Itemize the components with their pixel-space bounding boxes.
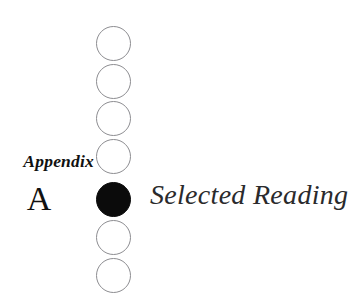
bullet-active: [96, 182, 131, 217]
appendix-letter: A: [0, 182, 94, 216]
bullet-inactive: [96, 26, 131, 61]
bullet-inactive: [96, 220, 131, 255]
bullet-inactive: [96, 101, 131, 136]
bullet-inactive: [96, 64, 131, 99]
bullet-inactive: [96, 258, 131, 293]
appendix-label: Appendix: [0, 153, 94, 171]
appendix-title-page: Appendix A Selected Reading: [0, 0, 351, 308]
bullet-inactive: [96, 139, 131, 174]
page-title: Selected Reading: [150, 181, 348, 209]
